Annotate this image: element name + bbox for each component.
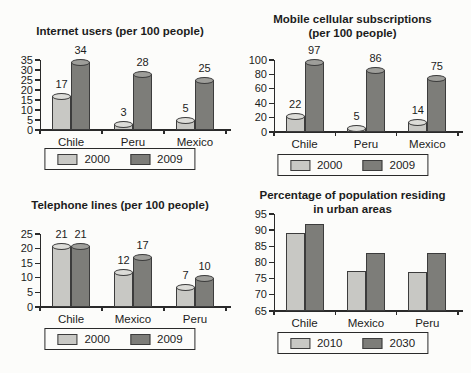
y-tick-label: 65 [240,305,267,318]
page: { "page": { "background": "#fcfcfa" }, "… [0,0,471,373]
category-label: Peru [336,138,396,150]
bar-series-2010 [347,271,366,311]
bar-value-label: 10 [188,260,222,272]
bar-cap [71,243,90,250]
legend-swatch [57,334,77,345]
bar-cap [195,275,214,282]
bar-series-2000 [286,116,305,132]
y-tick-label: 5 [6,286,33,299]
bar-value-label: 28 [126,56,160,68]
legend-label: 2010 [317,337,343,349]
x-axis-tick [101,307,102,311]
bar-series-2009 [195,80,214,130]
y-tick-label: 35 [6,54,33,67]
y-tick [269,117,274,118]
bar-cap [347,125,366,132]
y-tick [269,88,274,89]
legend-label: 2009 [157,333,183,345]
chart-title-line: Percentage of population residing [236,188,469,202]
bar-series-2000 [52,246,71,307]
bar-series-2009 [195,278,214,307]
category-label: Chile [41,313,101,325]
y-tick-label: 75 [240,272,267,285]
chart-telephone-lines: Telephone lines (per 100 people) 0510152… [6,184,234,368]
bar-series-2009 [366,70,385,132]
bar-cap [366,67,385,74]
bar-cap [305,59,324,66]
bar-series-2000 [52,96,71,130]
plot-area: 05101520253035Chile1734Peru328Mexico525 [40,60,226,130]
bar-value-label: 17 [126,239,160,251]
x-axis-tick [101,130,102,134]
y-tick-label: 0 [6,301,33,314]
y-tick [35,248,40,249]
bar-cap [52,93,71,100]
legend-item: 2000 [57,333,110,345]
bar-series-2010 [408,272,427,311]
y-tick [269,229,274,230]
y-tick-label: 40 [240,97,267,110]
bar-series-2000 [114,124,133,130]
y-tick-label: 80 [240,256,267,269]
y-tick-label: 95 [240,208,267,221]
y-axis [40,234,41,307]
legend-label: 2030 [390,337,416,349]
legend-label: 2000 [84,153,110,165]
chart-urban-population: Percentage of population residingin urba… [236,184,469,368]
x-axis-tick [39,307,40,311]
y-axis [274,60,275,132]
y-tick-label: 60 [240,82,267,95]
bar-cap [195,77,214,84]
y-tick [35,292,40,293]
bar-value-label: 97 [297,44,331,56]
bar-series-2030 [305,224,324,311]
y-tick [35,277,40,278]
bar-cap [427,75,446,82]
category-label: Mexico [397,138,457,150]
chart-title: Internet users (per 100 people) [6,24,234,38]
category-label: Mexico [336,317,396,329]
y-tick [269,262,274,263]
y-tick-label: 90 [240,224,267,237]
bar-series-2000 [176,120,195,130]
x-axis-tick [273,311,274,315]
legend: 20002009 [44,328,195,350]
chart-title: Mobile cellular subscriptions(per 100 pe… [236,12,469,40]
y-tick-label: 70 [240,288,267,301]
legend-swatch [290,338,310,349]
chart-mobile-subscriptions: Mobile cellular subscriptions(per 100 pe… [236,4,469,182]
y-axis [40,60,41,130]
y-tick [269,103,274,104]
bar-value-label: 21 [64,228,98,240]
bar-cap [133,71,152,78]
y-tick [35,89,40,90]
category-label: Peru [165,313,225,325]
y-tick [35,79,40,80]
category-label: Mexico [103,313,163,325]
y-tick [35,69,40,70]
legend-swatch [57,154,77,165]
x-axis-tick [225,307,226,311]
bar-series-2009 [133,74,152,130]
bar-cap [71,59,90,66]
legend-item: 2000 [290,159,343,171]
bar-series-2010 [286,233,305,311]
x-axis-tick [457,132,458,136]
x-axis-tick [335,132,336,136]
y-tick [269,74,274,75]
y-tick-label: 85 [240,240,267,253]
bar-cap [114,121,133,128]
plot-area: 65707580859095ChileMexicoPeru [274,214,458,311]
category-label: Chile [275,138,335,150]
plot-area: 0510152025Chile2121Mexico1217Peru710 [40,234,226,307]
bar-series-2000 [408,122,427,132]
y-tick [269,294,274,295]
chart-title-line: Telephone lines (per 100 people) [6,198,234,212]
legend-swatch [290,160,310,171]
bar-cap [408,119,427,126]
bar-series-2030 [366,253,385,311]
chart-title-line: Mobile cellular subscriptions [236,12,469,26]
bar-cap [52,243,71,250]
bar-cap [286,113,305,120]
bar-series-2000 [114,272,133,307]
